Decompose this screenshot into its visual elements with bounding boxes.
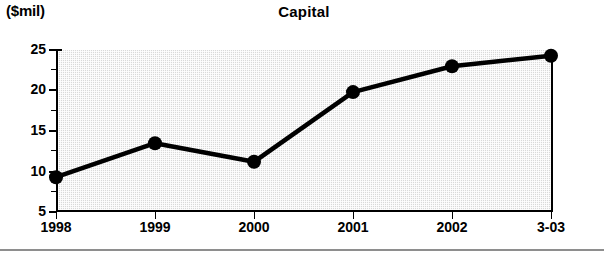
x-tick-2000	[254, 212, 255, 219]
y-tick-5	[49, 211, 56, 213]
y-tick-label-20: 20	[14, 82, 46, 96]
x-tick-label-2002: 2002	[436, 219, 467, 235]
x-tick-1999	[155, 212, 156, 219]
x-tick-2001	[353, 212, 354, 219]
footer-divider	[0, 249, 604, 251]
y-minor-tick-22-5	[51, 69, 56, 70]
x-tick-label-2001: 2001	[337, 219, 368, 235]
y-tick-label-5: 5	[14, 204, 46, 218]
x-tick-label-2000: 2000	[238, 219, 269, 235]
x-tick-3-03	[551, 212, 552, 219]
y-tick-label-10: 10	[14, 164, 46, 178]
y-minor-tick-17-5	[51, 110, 56, 111]
x-tick-1998	[56, 212, 57, 219]
x-tick-label-1999: 1999	[139, 219, 170, 235]
x-tick-2002	[452, 212, 453, 219]
y-tick-15	[49, 130, 56, 132]
y-tick-label-25: 25	[14, 42, 46, 56]
plot-right-border	[551, 50, 553, 212]
y-tick-10	[49, 171, 56, 173]
chart-title: Capital	[0, 3, 604, 21]
y-tick-20	[49, 89, 56, 91]
y-axis-top-tick	[56, 49, 62, 51]
capital-line-chart: ($mil) Capital 25 20 15 10 5 1998 1999 2…	[0, 0, 604, 260]
plot-axes-frame	[56, 50, 553, 212]
y-minor-tick-7-5	[51, 191, 56, 192]
x-tick-label-3-03: 3-03	[537, 219, 565, 235]
y-tick-label-15: 15	[14, 123, 46, 137]
x-tick-label-1998: 1998	[40, 219, 71, 235]
y-minor-tick-12-5	[51, 150, 56, 151]
y-tick-25	[49, 49, 56, 51]
